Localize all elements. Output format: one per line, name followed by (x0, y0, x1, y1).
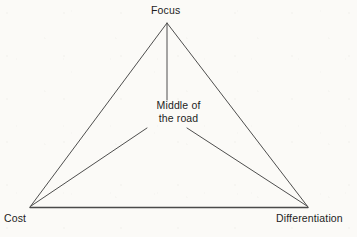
spoke-center-to-cost (31, 128, 147, 206)
center-label-line-1: Middle of (0, 99, 357, 112)
center-label-line-2: the road (0, 112, 357, 125)
strategy-triangle-diagram: Focus Cost Differentiation Middle of the… (0, 0, 357, 237)
vertex-label-differentiation: Differentiation (276, 212, 343, 225)
vertex-label-focus: Focus (151, 4, 180, 17)
center-label-middle-of-the-road: Middle of the road (0, 99, 357, 124)
spoke-center-to-differentiation (187, 128, 307, 206)
vertex-label-cost: Cost (4, 212, 26, 225)
